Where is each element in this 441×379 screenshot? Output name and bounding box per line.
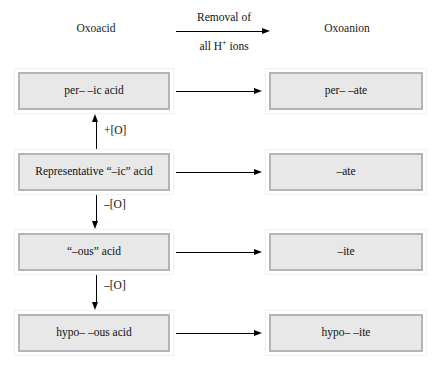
acid-node-representative-ic-acid: Representative “–ic” acid (14, 149, 174, 195)
acid-node-per-ic-acid: per– –ic acid (14, 68, 174, 114)
anion-node-hypo-ite-inner: hypo– –ite (269, 314, 423, 352)
acid-node-per-ic-acid-label: per– –ic acid (64, 85, 123, 97)
acid-node-ous-acid-inner: “–ous” acid (18, 233, 170, 271)
row-1-arrow-line (176, 91, 256, 92)
step-2-label: –[O] (104, 198, 126, 210)
anion-node-per-ate: per– –ate (265, 68, 427, 114)
step-3-arrow-line (96, 275, 97, 303)
anion-node-ate-label: –ate (336, 166, 355, 178)
row-4-arrowhead-icon (254, 330, 262, 336)
header-arrow-label-bottom-post: ions (227, 40, 249, 52)
step-3-label: –[O] (104, 279, 126, 291)
column-header-oxoanion: Oxoanion (292, 22, 402, 34)
anion-node-ite-label: –ite (337, 246, 354, 258)
anion-node-ite: –ite (265, 229, 427, 275)
anion-node-per-ate-label: per– –ate (325, 85, 367, 97)
header-transform-arrow-group: Removal of all H+ ions (176, 11, 272, 53)
row-3-arrowhead-icon (254, 249, 262, 255)
acid-node-hypo-ous-acid: hypo– –ous acid (14, 310, 174, 356)
anion-node-hypo-ite: hypo– –ite (265, 310, 427, 356)
row-1-arrowhead-icon (254, 88, 262, 94)
acid-node-representative-ic-acid-inner: Representative “–ic” acid (18, 153, 170, 191)
header-arrow-label-top: Removal of (176, 11, 272, 23)
step-1-label: +[O] (104, 124, 126, 136)
acid-node-per-ic-acid-inner: per– –ic acid (18, 72, 170, 110)
step-2-arrow-line (96, 195, 97, 222)
anion-node-ite-inner: –ite (269, 233, 423, 271)
acid-node-hypo-ous-acid-inner: hypo– –ous acid (18, 314, 170, 352)
acid-node-ous-acid: “–ous” acid (14, 229, 174, 275)
header-arrow-label-bottom-pre: all H (199, 40, 222, 52)
anion-node-per-ate-inner: per– –ate (269, 72, 423, 110)
oxoacid-oxoanion-diagram: Oxoacid Oxoanion Removal of all H+ ions … (0, 0, 441, 379)
row-2-arrow-line (176, 172, 256, 173)
anion-node-ate: –ate (265, 149, 427, 195)
step-1-arrow-line (96, 121, 97, 149)
acid-node-hypo-ous-acid-label: hypo– –ous acid (56, 327, 131, 339)
row-2-arrowhead-icon (254, 169, 262, 175)
header-arrowhead-icon (262, 28, 270, 34)
header-arrow-label-bottom: all H+ ions (176, 38, 272, 52)
row-3-arrow-line (176, 252, 256, 253)
header-arrow-line (176, 31, 264, 32)
anion-node-ate-inner: –ate (269, 153, 423, 191)
step-2-arrowhead-down-icon (92, 221, 98, 229)
row-4-arrow-line (176, 333, 256, 334)
column-header-oxoacid: Oxoacid (36, 22, 156, 34)
acid-node-ous-acid-label: “–ous” acid (67, 246, 121, 258)
step-3-arrowhead-down-icon (92, 302, 98, 310)
anion-node-hypo-ite-label: hypo– –ite (322, 327, 371, 339)
acid-node-representative-ic-acid-label: Representative “–ic” acid (35, 166, 153, 178)
